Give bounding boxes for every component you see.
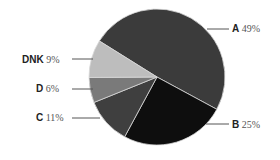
pie-slices [89, 9, 225, 145]
label-c-name: C [36, 112, 43, 123]
label-a-pct: 49% [242, 23, 260, 34]
label-d-name: D [36, 83, 43, 94]
label-b-name: B [232, 119, 239, 130]
label-dnk: DNK 9% [22, 54, 60, 66]
label-b-pct: 25% [242, 119, 260, 130]
label-d-pct: 6% [46, 83, 59, 94]
label-dnk-name: DNK [22, 54, 44, 65]
label-a-name: A [232, 23, 239, 34]
label-c: C 11% [36, 112, 64, 124]
label-c-pct: 11% [46, 112, 64, 123]
label-d: D 6% [36, 83, 59, 95]
label-b: B 25% [232, 119, 260, 131]
label-dnk-pct: 9% [46, 54, 59, 65]
label-a: A 49% [232, 23, 260, 35]
